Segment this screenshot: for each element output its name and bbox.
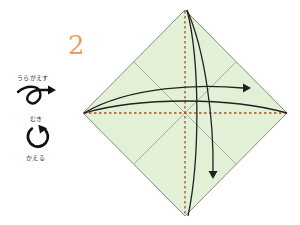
origami-diagram <box>0 0 300 225</box>
